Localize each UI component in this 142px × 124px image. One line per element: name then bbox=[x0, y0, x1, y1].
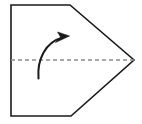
origami-fold-diagram: Origami fold diagram step bbox=[0, 0, 142, 124]
figure-canvas bbox=[0, 0, 142, 124]
